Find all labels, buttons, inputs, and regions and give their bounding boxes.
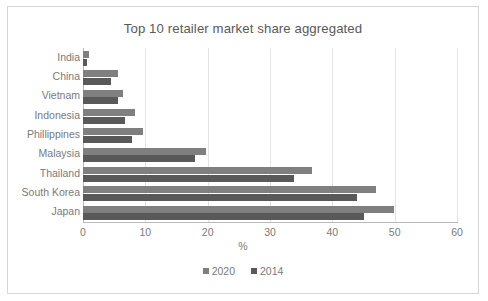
category-label-vietnam: Vietnam [8, 89, 80, 101]
bar-indonesia-2014 [83, 117, 125, 124]
x-tick-30: 30 [250, 226, 290, 238]
category-label-south-korea: South Korea [8, 186, 80, 198]
bar-group [83, 164, 457, 183]
bar-south-korea-2014 [83, 194, 357, 201]
bar-phillippines-2014 [83, 136, 132, 143]
bar-group [83, 48, 457, 67]
bar-india-2014 [83, 59, 87, 66]
legend-item-2020[interactable]: 2020 [203, 265, 235, 277]
bar-india-2020 [83, 51, 89, 58]
bar-group [83, 183, 457, 202]
bar-phillippines-2020 [83, 128, 143, 135]
bar-group [83, 106, 457, 125]
gridline-60 [457, 48, 458, 222]
legend-label: 2014 [260, 265, 283, 277]
legend-item-2014[interactable]: 2014 [251, 265, 283, 277]
bar-malaysia-2014 [83, 155, 195, 162]
category-label-japan: Japan [8, 205, 80, 217]
chart-container: Top 10 retailer market share aggregated … [7, 6, 479, 294]
x-axis-title: % [8, 240, 478, 252]
bar-group [83, 125, 457, 144]
bar-thailand-2014 [83, 175, 294, 182]
bar-china-2014 [83, 78, 111, 85]
bar-group [83, 87, 457, 106]
category-label-phillippines: Phillippines [8, 128, 80, 140]
category-label-indonesia: Indonesia [8, 109, 80, 121]
category-label-malaysia: Malaysia [8, 147, 80, 159]
bar-south-korea-2020 [83, 186, 376, 193]
chart-legend: 20202014 [8, 265, 478, 277]
category-label-india: India [8, 51, 80, 63]
chart-title: Top 10 retailer market share aggregated [8, 21, 478, 36]
bar-group [83, 145, 457, 164]
x-tick-60: 60 [437, 226, 477, 238]
y-axis-category-labels: IndiaChinaVietnamIndonesiaPhillippinesMa… [8, 48, 80, 222]
x-axis-line [83, 222, 458, 223]
x-tick-10: 10 [125, 226, 165, 238]
legend-swatch-icon [203, 268, 209, 274]
category-label-china: China [8, 70, 80, 82]
plot-area [83, 48, 457, 222]
bar-japan-2014 [83, 213, 364, 220]
x-tick-20: 20 [188, 226, 228, 238]
bar-japan-2020 [83, 206, 394, 213]
bar-thailand-2020 [83, 167, 312, 174]
x-tick-0: 0 [63, 226, 103, 238]
bar-group [83, 67, 457, 86]
bar-vietnam-2014 [83, 97, 118, 104]
bar-group [83, 203, 457, 222]
bar-china-2020 [83, 70, 118, 77]
legend-label: 2020 [212, 265, 235, 277]
bar-indonesia-2020 [83, 109, 135, 116]
bar-malaysia-2020 [83, 148, 206, 155]
category-label-thailand: Thailand [8, 167, 80, 179]
x-tick-50: 50 [375, 226, 415, 238]
x-tick-40: 40 [312, 226, 352, 238]
bar-vietnam-2020 [83, 90, 123, 97]
legend-swatch-icon [251, 268, 257, 274]
